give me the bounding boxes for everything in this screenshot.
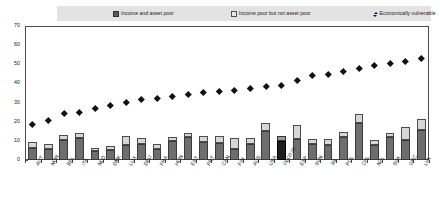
economically-vulnerable-marker: [61, 110, 67, 116]
y-axis-tick-label: 50: [14, 62, 20, 67]
economic-vulnerability-chart: Income and asset poorIncome poor but not…: [0, 0, 440, 201]
stacked-bar: [246, 138, 255, 160]
economically-vulnerable-marker: [107, 102, 113, 108]
diamond-marker-icon: [374, 10, 378, 14]
bar-segment-income-poor-not-asset-poor: [230, 138, 239, 149]
legend-entry-1[interactable]: Income poor but not asset poor: [231, 11, 311, 17]
economically-vulnerable-marker: [92, 105, 98, 111]
x-axis-label-fin: FIN: [237, 157, 246, 167]
bar-segment-income-and-asset-poor: [339, 137, 348, 160]
x-axis-label-svk: SVK: [392, 155, 402, 167]
economically-vulnerable-marker: [309, 73, 315, 79]
economically-vulnerable-marker: [402, 58, 408, 64]
bar-segment-income-and-asset-poor: [184, 137, 193, 160]
bar-segment-income-and-asset-poor: [355, 123, 364, 160]
y-axis-tick-label: 70: [14, 23, 20, 28]
stacked-bar: [28, 142, 37, 160]
x-axis-label-dnk: DNK: [112, 155, 122, 167]
bar-segment-income-poor-not-asset-poor: [261, 123, 270, 132]
bar-segment-income-poor-not-asset-poor: [417, 119, 426, 130]
economically-vulnerable-marker: [185, 91, 191, 97]
x-axis-label-irl: IRL: [330, 157, 339, 167]
x-axis-label-hun: HUN: [174, 154, 184, 166]
bar-segment-income-and-asset-poor: [386, 137, 395, 160]
stacked-bar: [184, 133, 193, 160]
bar-segment-income-poor-not-asset-poor: [122, 136, 131, 145]
bar-segment-income-and-asset-poor: [199, 142, 208, 160]
economically-vulnerable-marker: [340, 68, 346, 74]
x-axis-label-deu: DEU: [143, 155, 153, 167]
stacked-bar: [417, 119, 426, 160]
x-axis-label-ita: ITA: [81, 157, 89, 166]
stacked-bar: [355, 114, 364, 160]
bar-segment-income-and-asset-poor: [59, 140, 68, 160]
economically-vulnerable-marker: [387, 60, 393, 66]
x-axis-tick-mark: [25, 160, 26, 163]
x-axis-label-lva: LVA: [423, 156, 432, 166]
economically-vulnerable-marker: [216, 88, 222, 94]
stacked-bar: [199, 136, 208, 160]
stacked-bar: [261, 123, 270, 160]
economically-vulnerable-marker: [123, 99, 129, 105]
y-axis-tick-label: 20: [14, 119, 20, 124]
economically-vulnerable-marker: [356, 65, 362, 71]
legend-label: Income poor but not asset poor: [239, 11, 311, 16]
y-axis-tick-label: 60: [14, 42, 20, 47]
chart-legend: Income and asset poorIncome poor but not…: [57, 6, 431, 21]
bar-segment-income-poor-not-asset-poor: [215, 136, 224, 143]
bar-segment-income-poor-not-asset-poor: [401, 127, 410, 139]
x-axis-label-aus: AUS: [252, 155, 262, 167]
stacked-bar: [401, 127, 410, 160]
stacked-bar: [122, 136, 131, 160]
y-axis-tick-label: 40: [14, 81, 20, 86]
economically-vulnerable-marker: [278, 82, 284, 88]
economically-vulnerable-marker: [263, 83, 269, 89]
economically-vulnerable-marker: [169, 93, 175, 99]
economically-vulnerable-marker: [30, 121, 36, 127]
x-axis-label-nzl: NZL: [376, 156, 385, 167]
economically-vulnerable-marker: [418, 55, 424, 61]
stacked-bar: [215, 136, 224, 160]
bar-segment-income-and-asset-poor: [75, 138, 84, 160]
y-axis: 010203040506070: [0, 20, 25, 168]
stacked-bar: [277, 136, 286, 160]
economically-vulnerable-marker: [294, 77, 300, 83]
legend-label: Income and asset poor: [121, 11, 174, 16]
legend-label: Economically vulnerable: [380, 11, 436, 16]
stacked-bar: [230, 138, 239, 160]
stacked-bar: [75, 133, 84, 160]
stacked-bar: [59, 135, 68, 160]
bar-segment-income-and-asset-poor: [261, 131, 270, 160]
economically-vulnerable-marker: [76, 109, 82, 115]
y-axis-tick-label: 0: [17, 157, 20, 162]
x-axis-label-pol: POL: [345, 155, 355, 167]
bar-segment-income-and-asset-poor: [401, 140, 410, 160]
legend-entry-0[interactable]: Income and asset poor: [113, 11, 174, 17]
stacked-bar: [293, 125, 302, 160]
economically-vulnerable-marker: [371, 62, 377, 68]
hollow-square-icon: [231, 11, 237, 17]
economically-vulnerable-marker: [45, 117, 51, 123]
x-axis-label-svn: SVN: [314, 155, 324, 167]
bars-layer: [25, 26, 429, 160]
bar-segment-income-poor-not-asset-poor: [293, 125, 302, 139]
stacked-bar: [324, 139, 333, 160]
economically-vulnerable-marker: [154, 96, 160, 102]
x-axis-label-est: EST: [190, 155, 200, 166]
economically-vulnerable-marker: [200, 89, 206, 95]
bar-segment-income-poor-not-asset-poor: [355, 114, 364, 123]
x-axis: AUTNORBELITANLDDNKLUXDEUFRAHUNESTPRTCANF…: [25, 160, 429, 201]
economically-vulnerable-marker: [138, 96, 144, 102]
y-axis-tick-label: 10: [14, 138, 20, 143]
legend-entry-2[interactable]: Economically vulnerable: [374, 11, 436, 16]
economically-vulnerable-marker: [232, 87, 238, 93]
solid-square-icon: [113, 11, 119, 17]
stacked-bar: [386, 133, 395, 160]
economically-vulnerable-marker: [325, 71, 331, 77]
y-axis-tick-label: 30: [14, 100, 20, 105]
economically-vulnerable-marker: [247, 85, 253, 91]
stacked-bar: [339, 132, 348, 160]
